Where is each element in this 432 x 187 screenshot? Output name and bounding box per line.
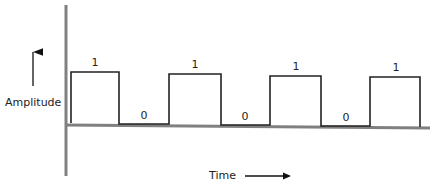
bit-label: 0 [242, 110, 249, 123]
bit-label: 1 [192, 58, 199, 71]
y-axis-label: Amplitude [5, 96, 62, 109]
bit-label: 0 [141, 109, 148, 122]
bit-label: 0 [343, 111, 350, 124]
bit-label: 1 [393, 61, 400, 74]
bit-label: 1 [293, 60, 300, 73]
bit-label: 1 [92, 56, 99, 69]
x-axis-label: Time [208, 169, 236, 182]
waveform-diagram: 1 0 1 0 1 0 1 Amplitude Time [0, 0, 432, 187]
time-arrow-head-icon [283, 173, 291, 180]
